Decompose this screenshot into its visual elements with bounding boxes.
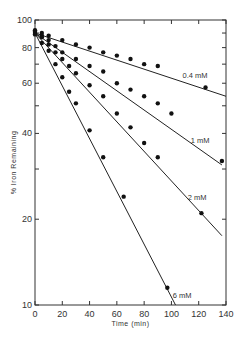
fit-line xyxy=(35,33,176,305)
data-point xyxy=(121,194,125,198)
data-point xyxy=(101,69,105,73)
data-point xyxy=(101,155,105,159)
data-point xyxy=(33,32,37,36)
x-tick-label: 120 xyxy=(191,309,206,319)
data-point xyxy=(46,34,50,38)
x-axis-label: Time (min) xyxy=(111,320,149,328)
y-tick-label: 20 xyxy=(22,214,32,224)
data-point xyxy=(156,101,160,105)
data-point xyxy=(101,50,105,54)
data-point xyxy=(60,57,64,61)
chart-plot: 0204060801001201401020406080100Time (min… xyxy=(0,0,251,338)
data-point xyxy=(87,45,91,49)
x-tick-label: 100 xyxy=(164,309,179,319)
data-point xyxy=(128,125,132,129)
series-label: 2 mM xyxy=(188,193,207,202)
series-label: 6 mM xyxy=(173,291,192,300)
data-point xyxy=(40,35,44,39)
series-label: 0.4 mM xyxy=(182,71,207,80)
data-point xyxy=(46,49,50,53)
x-tick-label: 140 xyxy=(218,309,233,319)
plot-frame xyxy=(35,20,226,305)
data-point xyxy=(142,141,146,145)
data-point xyxy=(46,42,50,46)
data-point xyxy=(220,159,224,163)
data-point xyxy=(128,57,132,61)
data-point xyxy=(53,44,57,48)
data-point xyxy=(60,75,64,79)
data-point xyxy=(60,50,64,54)
data-point xyxy=(46,38,50,42)
data-point xyxy=(115,53,119,57)
x-tick-label: 60 xyxy=(112,309,122,319)
data-point xyxy=(67,90,71,94)
data-point xyxy=(60,38,64,42)
data-point xyxy=(87,83,91,87)
data-point xyxy=(87,128,91,132)
data-point xyxy=(142,94,146,98)
data-point xyxy=(115,111,119,115)
series-label: 1 mM xyxy=(191,136,210,145)
data-point xyxy=(53,50,57,54)
data-point xyxy=(53,62,57,66)
data-point xyxy=(156,64,160,68)
data-point xyxy=(74,42,78,46)
y-tick-label: 80 xyxy=(22,43,32,53)
data-point xyxy=(74,71,78,75)
y-tick-label: 40 xyxy=(22,128,32,138)
x-tick-label: 40 xyxy=(85,309,95,319)
x-tick-label: 80 xyxy=(139,309,149,319)
data-point xyxy=(115,81,119,85)
data-point xyxy=(101,94,105,98)
data-point xyxy=(67,64,71,68)
y-tick-label: 10 xyxy=(22,300,32,310)
data-point xyxy=(74,57,78,61)
data-point xyxy=(203,85,207,89)
data-point xyxy=(142,62,146,66)
data-point xyxy=(40,41,44,45)
data-point xyxy=(165,286,169,290)
data-point xyxy=(87,64,91,68)
x-tick-label: 20 xyxy=(57,309,67,319)
y-axis-label: % Iron Remaining xyxy=(10,131,18,195)
data-point xyxy=(199,211,203,215)
fit-line xyxy=(35,33,222,236)
data-point xyxy=(74,101,78,105)
y-tick-label: 60 xyxy=(22,78,32,88)
y-tick-label: 100 xyxy=(17,15,32,25)
data-point xyxy=(128,87,132,91)
x-tick-label: 0 xyxy=(32,309,37,319)
data-point xyxy=(169,111,173,115)
data-point xyxy=(156,155,160,159)
